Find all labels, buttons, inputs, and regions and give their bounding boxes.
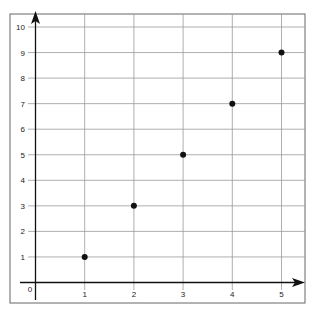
data-point bbox=[229, 101, 235, 107]
y-tick-label: 8 bbox=[21, 74, 26, 83]
x-tick-label: 2 bbox=[132, 290, 137, 299]
origin-label: 0 bbox=[28, 285, 33, 294]
x-tick-label: 5 bbox=[279, 290, 284, 299]
y-tick-label: 5 bbox=[21, 151, 26, 160]
y-tick-label: 9 bbox=[21, 49, 26, 58]
scatter-chart: 12345678910123450 bbox=[0, 0, 314, 314]
x-tick-label: 4 bbox=[230, 290, 235, 299]
y-tick-label: 1 bbox=[21, 253, 26, 262]
data-point bbox=[82, 254, 88, 260]
x-tick-label: 3 bbox=[181, 290, 186, 299]
chart-frame bbox=[10, 14, 305, 303]
x-tick-label: 1 bbox=[82, 290, 87, 299]
y-tick-label: 2 bbox=[21, 227, 26, 236]
y-tick-label: 10 bbox=[16, 23, 25, 32]
data-point bbox=[279, 50, 285, 56]
y-tick-label: 3 bbox=[21, 202, 26, 211]
y-tick-label: 4 bbox=[21, 176, 26, 185]
y-tick-label: 7 bbox=[21, 100, 26, 109]
y-tick-label: 6 bbox=[21, 125, 26, 134]
data-point bbox=[131, 203, 137, 209]
data-point bbox=[180, 152, 186, 158]
